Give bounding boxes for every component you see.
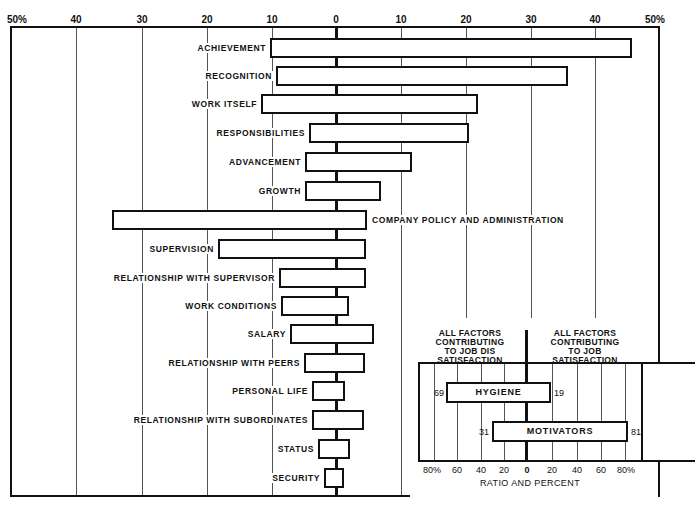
bar-label: STATUS bbox=[276, 444, 316, 454]
tick-label: 50% bbox=[7, 14, 27, 25]
inset-tick-label: 0 bbox=[524, 465, 529, 475]
bar-security bbox=[324, 468, 344, 488]
inset-gridline bbox=[434, 364, 435, 460]
motivators-right-value: 81 bbox=[631, 427, 641, 437]
bar-supervision bbox=[218, 239, 366, 259]
inset-tick-label: 60 bbox=[452, 465, 462, 475]
bar-work-conditions bbox=[281, 296, 349, 316]
inset-x-axis-label: RATIO AND PERCENT bbox=[425, 478, 635, 488]
inset-frame bbox=[418, 362, 695, 462]
inset-left-header: ALL FACTORS CONTRIBUTING TO JOB DIS SATI… bbox=[420, 329, 520, 365]
bar-achievement bbox=[270, 38, 632, 58]
tick-label: 50% bbox=[645, 14, 665, 25]
inset-tick-label: 40 bbox=[572, 465, 582, 475]
bar-responsibilities bbox=[309, 123, 469, 143]
inset-tick-label: 20 bbox=[499, 465, 509, 475]
tick-label: 10 bbox=[395, 14, 406, 25]
inset-gridline bbox=[457, 364, 458, 460]
bar-label: COMPANY POLICY AND ADMINISTRATION bbox=[370, 215, 566, 225]
bar-motivators: MOTIVATORS bbox=[492, 421, 628, 442]
inset-gridline bbox=[481, 364, 482, 460]
hygiene-right-value: 19 bbox=[554, 388, 564, 398]
bar-label: ACHIEVEMENT bbox=[196, 43, 268, 53]
tick-label: 40 bbox=[70, 14, 81, 25]
inset-frame-right bbox=[641, 362, 643, 462]
inset-tick-label: 20 bbox=[547, 465, 557, 475]
bar-label: RECOGNITION bbox=[203, 71, 274, 81]
tick-label: 10 bbox=[266, 14, 277, 25]
bar-label: SECURITY bbox=[270, 473, 322, 483]
bar-relationship-peers bbox=[304, 353, 365, 373]
tick-label: 0 bbox=[333, 14, 339, 25]
inset-tick-label: 40 bbox=[476, 465, 486, 475]
inset-gridline bbox=[552, 364, 553, 460]
bar-label: PERSONAL LIFE bbox=[230, 386, 310, 396]
gridline bbox=[76, 28, 77, 495]
bar-company-policy bbox=[112, 210, 367, 230]
bar-status bbox=[318, 439, 350, 459]
bar-growth bbox=[305, 181, 381, 201]
hygiene-label: HYGIENE bbox=[475, 387, 521, 397]
bar-label: RELATIONSHIP WITH SUPERVISOR bbox=[112, 273, 277, 283]
inset-tick-label: 80% bbox=[423, 465, 441, 475]
bar-relationship-subordinates bbox=[312, 410, 364, 430]
inset-gridline bbox=[577, 364, 578, 460]
inset-gridline bbox=[601, 364, 602, 460]
bar-hygiene: HYGIENE bbox=[446, 382, 551, 403]
bar-recognition bbox=[276, 66, 568, 86]
motivators-left-value: 31 bbox=[479, 427, 489, 437]
bar-label: WORK CONDITIONS bbox=[183, 301, 279, 311]
bar-label: ADVANCEMENT bbox=[227, 157, 303, 167]
bar-label: WORK ITSELF bbox=[190, 99, 259, 109]
bar-label: GROWTH bbox=[257, 186, 303, 196]
tick-label: 30 bbox=[525, 14, 536, 25]
bar-personal-life bbox=[312, 381, 345, 401]
bar-label: SALARY bbox=[246, 329, 288, 339]
bar-advancement bbox=[305, 152, 412, 172]
motivators-label: MOTIVATORS bbox=[527, 426, 594, 436]
tick-label: 20 bbox=[460, 14, 471, 25]
hygiene-left-value: 69 bbox=[434, 388, 444, 398]
tick-label: 40 bbox=[589, 14, 600, 25]
inset-tick-label: 60 bbox=[596, 465, 606, 475]
bar-label: RESPONSIBILITIES bbox=[215, 128, 307, 138]
bar-label: RELATIONSHIP WITH PEERS bbox=[166, 358, 302, 368]
inset-right-header: ALL FACTORS CONTRIBUTING TO JOB SATISFAC… bbox=[535, 329, 635, 365]
bar-work-itself bbox=[261, 94, 478, 114]
tick-label: 20 bbox=[201, 14, 212, 25]
bar-label: RELATIONSHIP WITH SUBORDINATES bbox=[132, 415, 310, 425]
inset-gridline bbox=[504, 364, 505, 460]
bar-salary bbox=[290, 324, 374, 344]
tick-label: 30 bbox=[136, 14, 147, 25]
bar-relationship-supervisor bbox=[279, 268, 366, 288]
inset-gridline bbox=[625, 364, 626, 460]
inset-tick-label: 80% bbox=[617, 465, 635, 475]
bar-label: SUPERVISION bbox=[147, 244, 216, 254]
